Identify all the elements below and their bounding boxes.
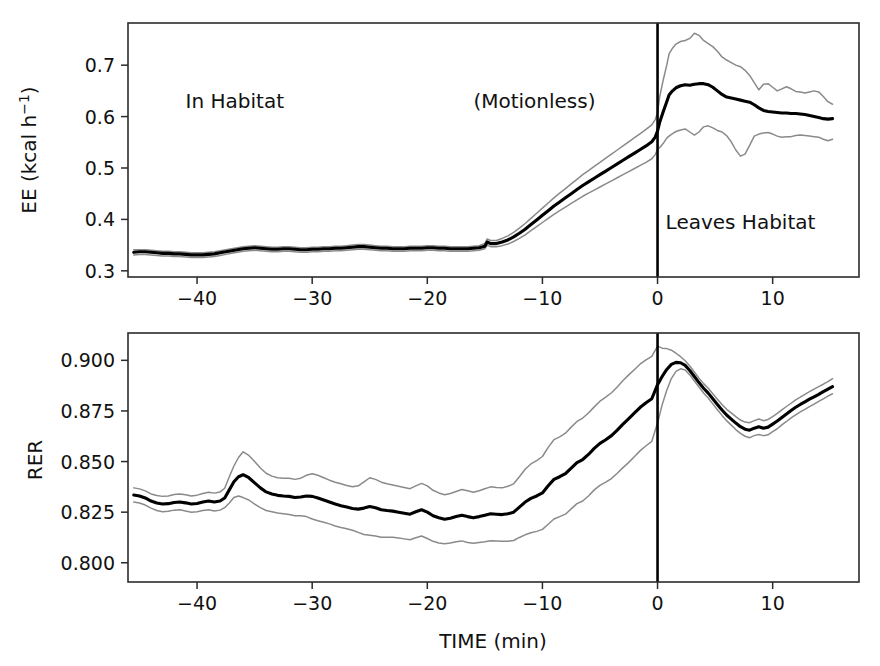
x-tick-label: −10 xyxy=(522,592,562,614)
x-tick-label: −20 xyxy=(407,592,447,614)
y-tick-label: 0.800 xyxy=(61,552,115,574)
x-tick-label: −10 xyxy=(522,287,562,309)
x-tick-label: 0 xyxy=(651,592,663,614)
rer-x-axis-ticks: −40−30−20−10010 xyxy=(177,582,785,614)
x-tick-label: −40 xyxy=(177,287,217,309)
annotation-leaves-habitat: Leaves Habitat xyxy=(666,210,816,234)
rer-y-axis-ticks: 0.8000.8250.8500.8750.900 xyxy=(61,349,128,573)
x-axis-title: TIME (min) xyxy=(438,629,547,653)
svg-text:EE (kcal h−1): EE (kcal h−1) xyxy=(16,86,41,213)
y-tick-label: 0.7 xyxy=(85,54,115,76)
annotation-motionless: (Motionless) xyxy=(473,89,595,113)
x-tick-label: −40 xyxy=(177,592,217,614)
ee-panel: 0.30.40.50.60.7 −40−30−20−10010 EE (kcal… xyxy=(16,23,859,309)
y-tick-label: 0.6 xyxy=(85,106,115,128)
y-tick-label: 0.4 xyxy=(85,208,115,230)
y-tick-label: 0.900 xyxy=(61,349,115,371)
ee-x-axis-ticks: −40−30−20−10010 xyxy=(177,277,785,309)
y-tick-label: 0.825 xyxy=(61,501,115,523)
y-tick-label: 0.5 xyxy=(85,157,115,179)
figure-root: 0.30.40.50.60.7 −40−30−20−10010 EE (kcal… xyxy=(0,0,880,666)
rer-plot-background xyxy=(128,333,859,582)
ee-y-axis-ticks: 0.30.40.50.60.7 xyxy=(85,54,128,282)
x-tick-label: −30 xyxy=(292,287,332,309)
ee-plot-background xyxy=(128,23,859,277)
y-tick-label: 0.875 xyxy=(61,400,115,422)
x-tick-label: 10 xyxy=(761,287,785,309)
x-tick-label: 0 xyxy=(651,287,663,309)
annotation-in-habitat: In Habitat xyxy=(186,89,285,113)
x-tick-label: 10 xyxy=(761,592,785,614)
y-tick-label: 0.3 xyxy=(85,260,115,282)
ee-y-axis-title-suffix: ) xyxy=(17,86,41,94)
x-tick-label: −20 xyxy=(407,287,447,309)
rer-panel: 0.8000.8250.8500.8750.900 −40−30−20−1001… xyxy=(23,333,859,653)
rer-y-axis-title-text: RER xyxy=(23,440,47,481)
x-tick-label: −30 xyxy=(292,592,332,614)
ee-y-axis-title-exponent: −1 xyxy=(16,94,32,115)
y-tick-label: 0.850 xyxy=(61,451,115,473)
ee-y-axis-title: EE (kcal h−1) xyxy=(16,86,41,213)
rer-y-axis-title: RER xyxy=(23,440,47,481)
figure-svg: 0.30.40.50.60.7 −40−30−20−10010 EE (kcal… xyxy=(0,0,880,666)
ee-y-axis-title-main: EE (kcal h xyxy=(17,115,41,214)
